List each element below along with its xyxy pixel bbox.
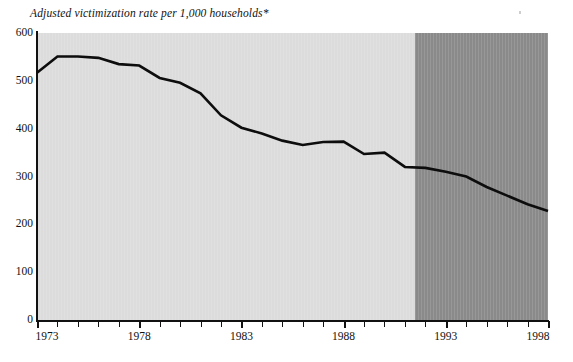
chart-figure: Adjusted victimization rate per 1,000 ho… <box>0 0 573 362</box>
series-layer <box>0 0 573 362</box>
scan-artifact <box>519 11 521 14</box>
victimization-rate-line <box>37 56 548 211</box>
footnote-clipped <box>30 354 560 362</box>
